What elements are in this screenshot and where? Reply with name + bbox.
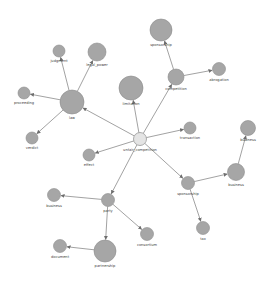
node-label-judgment: judgment — [49, 59, 68, 63]
node-label-verdict: verdict — [26, 146, 39, 150]
node-legal_power[interactable] — [88, 43, 106, 61]
node-label-consortium: consortium — [137, 243, 158, 247]
edge-unfair_competition-to-competition — [143, 84, 171, 133]
node-tax[interactable] — [197, 222, 210, 235]
edge-party-to-business_left — [61, 196, 102, 200]
node-business_top[interactable] — [241, 121, 256, 136]
node-label-unfair_competition: unfair_competition — [123, 148, 157, 152]
node-label-competition: competition — [165, 87, 186, 91]
node-label-party: party — [103, 209, 113, 213]
node-label-document: document — [51, 255, 70, 259]
node-verdict[interactable] — [26, 132, 38, 144]
node-label-sponsorship_top: sponsorship — [150, 43, 172, 47]
node-label-limitation: limitation — [123, 102, 140, 106]
node-limitation[interactable] — [119, 76, 143, 100]
node-label-legal_power: legal_power — [86, 63, 108, 67]
node-label-proceeding: proceeding — [14, 101, 34, 105]
edge-unfair_competition-to-law — [83, 108, 134, 136]
node-abrogation[interactable] — [213, 63, 226, 76]
node-competition[interactable] — [168, 69, 184, 85]
edge-law-to-proceeding — [30, 94, 60, 100]
node-partnership[interactable] — [94, 240, 116, 262]
edge-sponsorship_low-to-business_right — [194, 174, 227, 182]
node-consortium[interactable] — [141, 228, 154, 241]
node-label-law: law — [69, 116, 75, 120]
edge-competition-to-abrogation — [184, 70, 212, 75]
node-label-abrogation: abrogation — [209, 78, 228, 82]
node-sponsorship_low[interactable] — [182, 177, 195, 190]
edge-unfair_competition-to-transaction — [146, 129, 183, 137]
node-proceeding[interactable] — [18, 87, 30, 99]
node-effect[interactable] — [83, 149, 95, 161]
node-party[interactable] — [102, 194, 115, 207]
node-label-sponsorship_low: sponsorship — [177, 192, 199, 196]
edge-party-to-consortium — [113, 204, 142, 229]
node-unfair_competition[interactable] — [134, 133, 147, 146]
node-label-effect: effect — [84, 163, 95, 167]
node-business_right[interactable] — [228, 164, 245, 181]
node-document[interactable] — [54, 240, 67, 253]
node-label-business_left: business — [46, 204, 62, 208]
node-sponsorship_top[interactable] — [150, 19, 172, 41]
node-law[interactable] — [60, 90, 84, 114]
edge-partnership-to-document — [67, 247, 94, 250]
network-graph: unfair_competitionlawjudgmentlegal_power… — [0, 0, 269, 283]
edge-unfair_competition-to-party — [111, 145, 137, 194]
node-label-tax: tax — [200, 237, 207, 241]
node-label-transaction: transaction — [180, 136, 200, 140]
node-business_left[interactable] — [48, 189, 61, 202]
node-label-partnership: partnership — [95, 264, 116, 268]
node-judgment[interactable] — [53, 45, 65, 57]
node-label-business_top: business — [240, 138, 256, 142]
edge-law-to-verdict — [37, 110, 63, 134]
node-transaction[interactable] — [184, 122, 196, 134]
node-label-business_right: business — [228, 183, 244, 187]
